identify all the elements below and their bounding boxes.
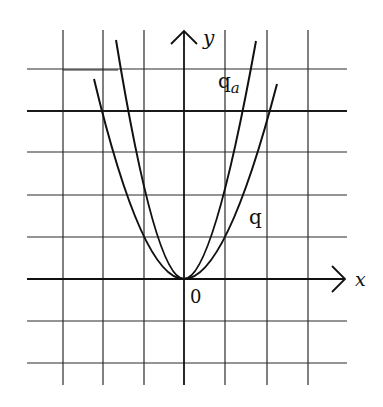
curve-q-label: q — [249, 205, 262, 229]
curve-q — [94, 79, 277, 279]
axes — [27, 31, 345, 385]
curve-q-a — [116, 40, 256, 279]
grid — [27, 30, 347, 385]
origin-label: 0 — [190, 286, 201, 307]
parabola-diagram: y x 0 qa q — [0, 0, 383, 407]
labels: y x 0 qa q — [190, 26, 366, 307]
y-axis-label: y — [202, 26, 215, 50]
curves — [94, 40, 277, 279]
x-axis-label: x — [355, 268, 366, 290]
curve-q-a-label: qa — [218, 69, 240, 97]
